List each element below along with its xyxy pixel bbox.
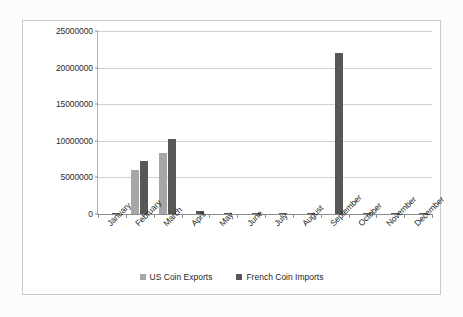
bar-group [154,31,182,214]
y-axis-tick-label: 25000000 [56,26,93,36]
x-axis-tick-mark [98,214,99,218]
x-axis-tick-mark [209,214,210,218]
bar-group [98,31,126,214]
bar-series-container [98,31,432,214]
bar [335,53,343,214]
legend-swatch-icon [140,274,146,280]
x-axis-tick-mark [321,214,322,218]
y-axis-tick-label: 5000000 [61,172,93,182]
x-axis-tick-mark [293,214,294,218]
x-axis-tick-mark [126,214,127,218]
plot-area: 0500000010000000150000002000000025000000 [97,31,432,215]
x-axis-tick-mark [154,214,155,218]
bar [168,139,176,214]
bar-group [404,31,432,214]
chart-frame: 0500000010000000150000002000000025000000… [22,20,441,295]
legend-swatch-icon [236,274,242,280]
x-axis-tick-mark [182,214,183,218]
chart-legend: US Coin ExportsFrench Coin Imports [23,272,440,282]
x-axis-tick-mark [349,214,350,218]
legend-label: US Coin Exports [150,272,213,282]
x-axis-tick-mark [265,214,266,218]
y-axis-tick-label: 15000000 [56,99,93,109]
bar-group [321,31,349,214]
bar-group [182,31,210,214]
legend-item: US Coin Exports [140,272,213,282]
bar-group [376,31,404,214]
bar-group [265,31,293,214]
legend-label: French Coin Imports [246,272,323,282]
y-axis-tick-label: 10000000 [56,136,93,146]
bar-group [237,31,265,214]
bar-group [293,31,321,214]
scanned-page: 0500000010000000150000002000000025000000… [0,0,463,317]
legend-item: French Coin Imports [236,272,323,282]
bar-group [126,31,154,214]
x-axis-tick-mark [237,214,238,218]
y-axis-tick-label: 0 [88,209,93,219]
y-axis-tick-label: 20000000 [56,63,93,73]
bar-group [209,31,237,214]
bar-group [349,31,377,214]
